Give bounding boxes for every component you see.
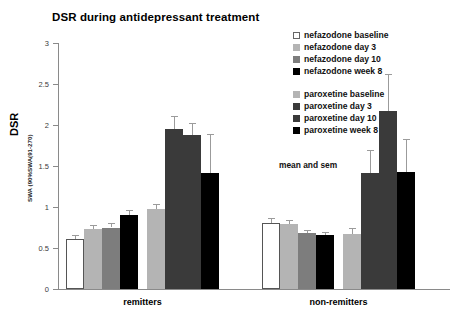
bar [66,239,84,289]
legend-item[interactable]: paroxetine day 10 [293,112,389,124]
legend-group-paroxetine: paroxetine baselineparoxetine day 3parox… [293,88,389,136]
chart-figure: DSR during antidepressant treatment DSR … [0,0,458,318]
legend-spacer [293,77,389,88]
y-tick-label: 2.5 [13,80,49,89]
bar [120,215,138,289]
y-tick-label: 2 [13,121,49,130]
y-tick-label: 0 [13,285,49,294]
bar [165,129,183,289]
legend-item[interactable]: nefazodone day 10 [293,53,389,65]
error-bar [192,123,193,134]
bar [298,233,316,289]
group-label-remitters: remitters [83,297,203,307]
error-bar-cap [108,223,115,224]
legend-item-label: paroxetine week 8 [304,124,378,136]
error-bar-cap [286,220,293,221]
error-bar-cap [304,230,311,231]
legend-item[interactable]: nefazodone day 3 [293,41,389,53]
legend-item-label: paroxetine baseline [304,88,384,100]
y-tick-label: 1 [13,203,49,212]
mean-and-sem-annotation: mean and sem [279,160,337,170]
bar [397,172,415,289]
legend-swatch-icon [293,44,300,51]
legend-item[interactable]: paroxetine week 8 [293,124,389,136]
legend-item-label: nefazodone day 3 [304,41,376,53]
legend-swatch-icon [293,115,300,122]
bar [84,229,102,289]
y-tick-label: 1.5 [13,162,49,171]
legend-item[interactable]: nefazodone baseline [293,29,389,41]
legend-swatch-icon [293,91,300,98]
bar [361,173,379,289]
bar [102,228,120,290]
plot-area [58,43,448,289]
legend-item[interactable]: paroxetine baseline [293,88,389,100]
legend-group-nefazodone: nefazodone baselinenefazodone day 3nefaz… [293,29,389,77]
bar [280,224,298,289]
error-bar-cap [349,228,356,229]
legend-item[interactable]: paroxetine day 3 [293,100,389,112]
error-bar [210,134,211,173]
chart-legend: nefazodone baselinenefazodone day 3nefaz… [293,29,389,136]
legend-item-label: nefazodone baseline [304,29,389,41]
error-bar [174,116,175,129]
y-tick-label: 0.5 [13,244,49,253]
legend-swatch-icon [293,56,300,63]
group-label-non-remitters: non-remitters [279,297,399,307]
legend-item-label: nefazodone day 10 [304,53,381,65]
error-bar-cap [171,116,178,117]
legend-item-label: nefazodone week 8 [304,65,382,77]
error-bar-cap [403,139,410,140]
legend-item-label: paroxetine day 10 [304,112,377,124]
legend-swatch-icon [293,68,300,75]
bar [183,135,201,289]
error-bar-cap [322,232,329,233]
x-axis-line [58,289,450,290]
legend-swatch-icon [293,127,300,134]
bar [201,173,219,289]
legend-item[interactable]: nefazodone week 8 [293,65,389,77]
error-bar-cap [268,218,275,219]
error-bar-cap [90,225,97,226]
error-bar [370,150,371,173]
error-bar-cap [367,150,374,151]
bar [379,111,397,289]
bar [343,234,361,289]
bar [262,223,280,289]
bar [316,235,334,289]
error-bar-cap [153,204,160,205]
chart-title: DSR during antidepressant treatment [52,11,259,23]
legend-item-label: paroxetine day 3 [304,100,372,112]
error-bar-cap [189,123,196,124]
y-tick-label: 3 [13,39,49,48]
y-tick-mark [53,289,58,290]
legend-swatch-icon [293,32,300,39]
error-bar-cap [207,134,214,135]
error-bar [406,139,407,172]
error-bar-cap [126,210,133,211]
error-bar-cap [72,235,79,236]
bar [147,209,165,289]
legend-swatch-icon [293,103,300,110]
